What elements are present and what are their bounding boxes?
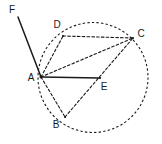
point-B bbox=[64, 116, 66, 118]
segment-A-B bbox=[41, 77, 65, 117]
label-A: A bbox=[28, 72, 35, 83]
point-A bbox=[40, 76, 43, 79]
label-layer: ABCDEF bbox=[9, 4, 145, 130]
label-E: E bbox=[101, 81, 108, 92]
label-F: F bbox=[9, 4, 15, 15]
point-C bbox=[132, 37, 134, 39]
label-D: D bbox=[53, 19, 60, 30]
geometry-figure: ABCDEF bbox=[0, 0, 162, 144]
figure-canvas: ABCDEF bbox=[0, 0, 162, 144]
label-C: C bbox=[137, 28, 144, 39]
segment-A-C bbox=[41, 38, 133, 77]
segment-layer bbox=[18, 17, 133, 117]
segment-D-C bbox=[63, 36, 133, 38]
point-E bbox=[99, 77, 101, 79]
label-B: B bbox=[53, 119, 60, 130]
segment-F-A bbox=[18, 17, 41, 77]
segment-A-D bbox=[41, 36, 63, 77]
segment-A-E bbox=[41, 77, 100, 78]
point-D bbox=[62, 35, 64, 37]
